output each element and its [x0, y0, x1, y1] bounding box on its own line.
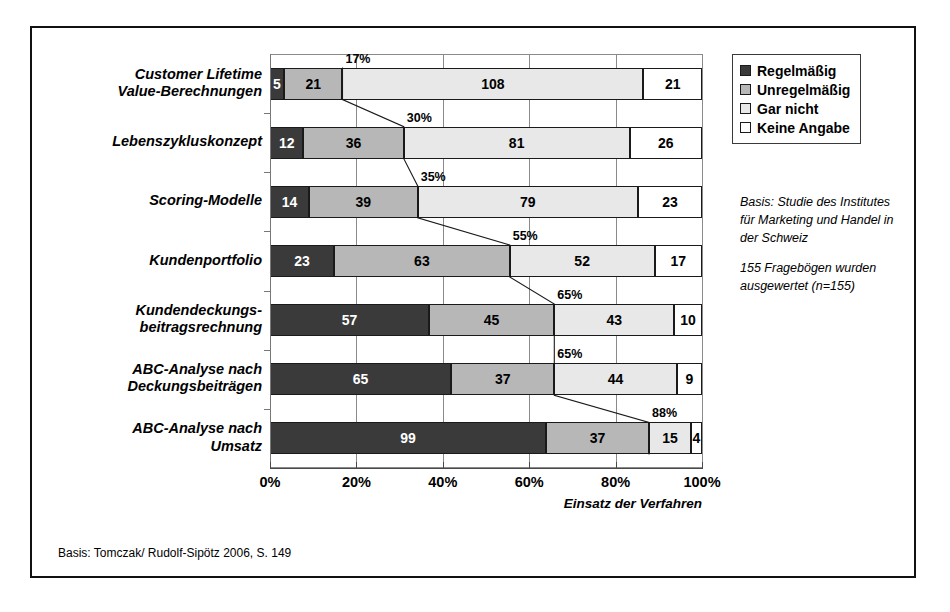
y-axis-tick — [264, 409, 270, 410]
x-axis-tick — [356, 462, 357, 469]
light-gray-swatch — [740, 103, 751, 114]
bar-row: 23635217 — [270, 245, 702, 277]
side-note-paragraph-2: 155 Fragebögen wurden ausgewertet (n=155… — [740, 260, 900, 296]
percent-annotation: 55% — [513, 229, 538, 243]
percent-annotation: 65% — [557, 288, 582, 302]
category-label-line: Lebenszykluskonzept — [47, 133, 262, 150]
percent-annotation: 17% — [345, 52, 370, 66]
bar-segment: 15 — [649, 422, 691, 454]
category-label-line: ABC-Analyse nach — [47, 420, 262, 437]
y-axis-spine — [270, 54, 271, 468]
legend-label: Gar nicht — [757, 101, 818, 117]
category-label-line: Value-Berechnungen — [47, 83, 262, 100]
legend-item[interactable]: Regelmäßig — [740, 61, 850, 80]
x-axis-tick — [529, 462, 530, 469]
y-axis-tick — [264, 113, 270, 114]
bar-segment: 17 — [655, 245, 702, 277]
bar-segment: 39 — [309, 186, 418, 218]
bar-row: 57454310 — [270, 304, 702, 336]
category-label: Customer LifetimeValue-Berechnungen — [47, 66, 262, 100]
x-axis-title: Einsatz der Verfahren — [564, 496, 702, 511]
bar-segment: 26 — [630, 127, 702, 159]
category-label-line: Scoring-Modelle — [47, 192, 262, 209]
bar-segment: 108 — [342, 68, 643, 100]
category-axis-labels: Customer LifetimeValue-BerechnungenLeben… — [40, 54, 262, 468]
bar-row: 6537449 — [270, 363, 702, 395]
legend-item[interactable]: Keine Angabe — [740, 118, 850, 137]
chart-legend: RegelmäßigUnregelmäßigGar nichtKeine Ang… — [732, 54, 861, 144]
legend-label: Keine Angabe — [757, 120, 850, 136]
x-axis-tick — [702, 462, 703, 469]
bar-row: 9937154 — [270, 422, 702, 454]
bar-segment: 44 — [554, 363, 677, 395]
x-axis-tick — [270, 462, 271, 469]
percent-annotation: 30% — [407, 111, 432, 125]
category-label-line: Kundenportfolio — [47, 252, 262, 269]
bar-row: 14397923 — [270, 186, 702, 218]
bar-segment: 43 — [554, 304, 674, 336]
x-axis-tick-label: 20% — [342, 474, 371, 490]
bar-segment: 57 — [270, 304, 429, 336]
category-label-line: beitragsrechnung — [47, 319, 262, 336]
side-note-paragraph-1: Basis: Studie des Institutes für Marketi… — [740, 194, 900, 247]
legend-item[interactable]: Gar nicht — [740, 99, 850, 118]
category-label-line: Customer Lifetime — [47, 66, 262, 83]
plot-top-rule — [270, 54, 702, 55]
bar-segment: 14 — [270, 186, 309, 218]
bar-segment: 36 — [303, 127, 403, 159]
bar-segment: 99 — [270, 422, 546, 454]
legend-label: Unregelmäßig — [757, 82, 850, 98]
x-axis-tick-label: 60% — [515, 474, 544, 490]
bar-segment: 23 — [638, 186, 702, 218]
bar-segment: 37 — [451, 363, 554, 395]
category-label: ABC-Analyse nachUmsatz — [47, 420, 262, 454]
percent-annotation: 88% — [652, 406, 677, 420]
category-label-line: Umsatz — [47, 438, 262, 455]
bar-segment: 79 — [418, 186, 638, 218]
category-label-line: Kundendeckungs- — [47, 302, 262, 319]
gridline-100pct — [702, 54, 703, 468]
dark-swatch — [740, 65, 751, 76]
y-axis-tick — [264, 172, 270, 173]
chart-figure-frame: 5211082112368126143979232363521757454310… — [30, 26, 916, 578]
bar-segment: 9 — [677, 363, 702, 395]
bar-row: 52110821 — [270, 68, 702, 100]
y-axis-tick — [264, 350, 270, 351]
y-axis-tick — [264, 291, 270, 292]
bar-segment: 81 — [404, 127, 630, 159]
medium-gray-swatch — [740, 84, 751, 95]
bar-segment: 4 — [691, 422, 702, 454]
category-label: ABC-Analyse nachDeckungsbeiträgen — [47, 361, 262, 395]
bar-segment: 5 — [270, 68, 284, 100]
x-axis-tick-label: 100% — [683, 474, 720, 490]
bar-segment: 21 — [284, 68, 343, 100]
bar-segment: 63 — [334, 245, 510, 277]
y-axis-tick — [264, 231, 270, 232]
bar-segment: 37 — [546, 422, 649, 454]
x-axis-tick-label: 40% — [428, 474, 457, 490]
bar-segment: 23 — [270, 245, 334, 277]
bar-segment: 12 — [270, 127, 303, 159]
legend-item[interactable]: Unregelmäßig — [740, 80, 850, 99]
bar-segment: 21 — [643, 68, 702, 100]
x-axis-tick — [443, 462, 444, 469]
category-label-line: ABC-Analyse nach — [47, 361, 262, 378]
category-label: Lebenszykluskonzept — [47, 133, 262, 150]
x-axis-tick-label: 0% — [260, 474, 281, 490]
x-axis-tick — [616, 462, 617, 469]
white-swatch — [740, 122, 751, 133]
category-label: Kundenportfolio — [47, 252, 262, 269]
x-axis: 0%20%40%60%80%100% Einsatz der Verfahren — [270, 468, 702, 538]
bar-segment: 52 — [510, 245, 655, 277]
category-label: Kundendeckungs-beitragsrechnung — [47, 302, 262, 336]
bar-segment: 65 — [270, 363, 451, 395]
percent-annotation: 35% — [421, 170, 446, 184]
plot-area: 5211082112368126143979232363521757454310… — [270, 54, 702, 468]
bar-segment: 10 — [674, 304, 702, 336]
source-footer: Basis: Tomczak/ Rudolf-Sipötz 2006, S. 1… — [58, 546, 291, 560]
side-note: Basis: Studie des Institutes für Marketi… — [740, 194, 900, 296]
bar-segment: 45 — [429, 304, 554, 336]
x-axis-line — [270, 468, 702, 469]
percent-annotation: 65% — [557, 347, 582, 361]
category-label-line: Deckungsbeiträgen — [47, 378, 262, 395]
